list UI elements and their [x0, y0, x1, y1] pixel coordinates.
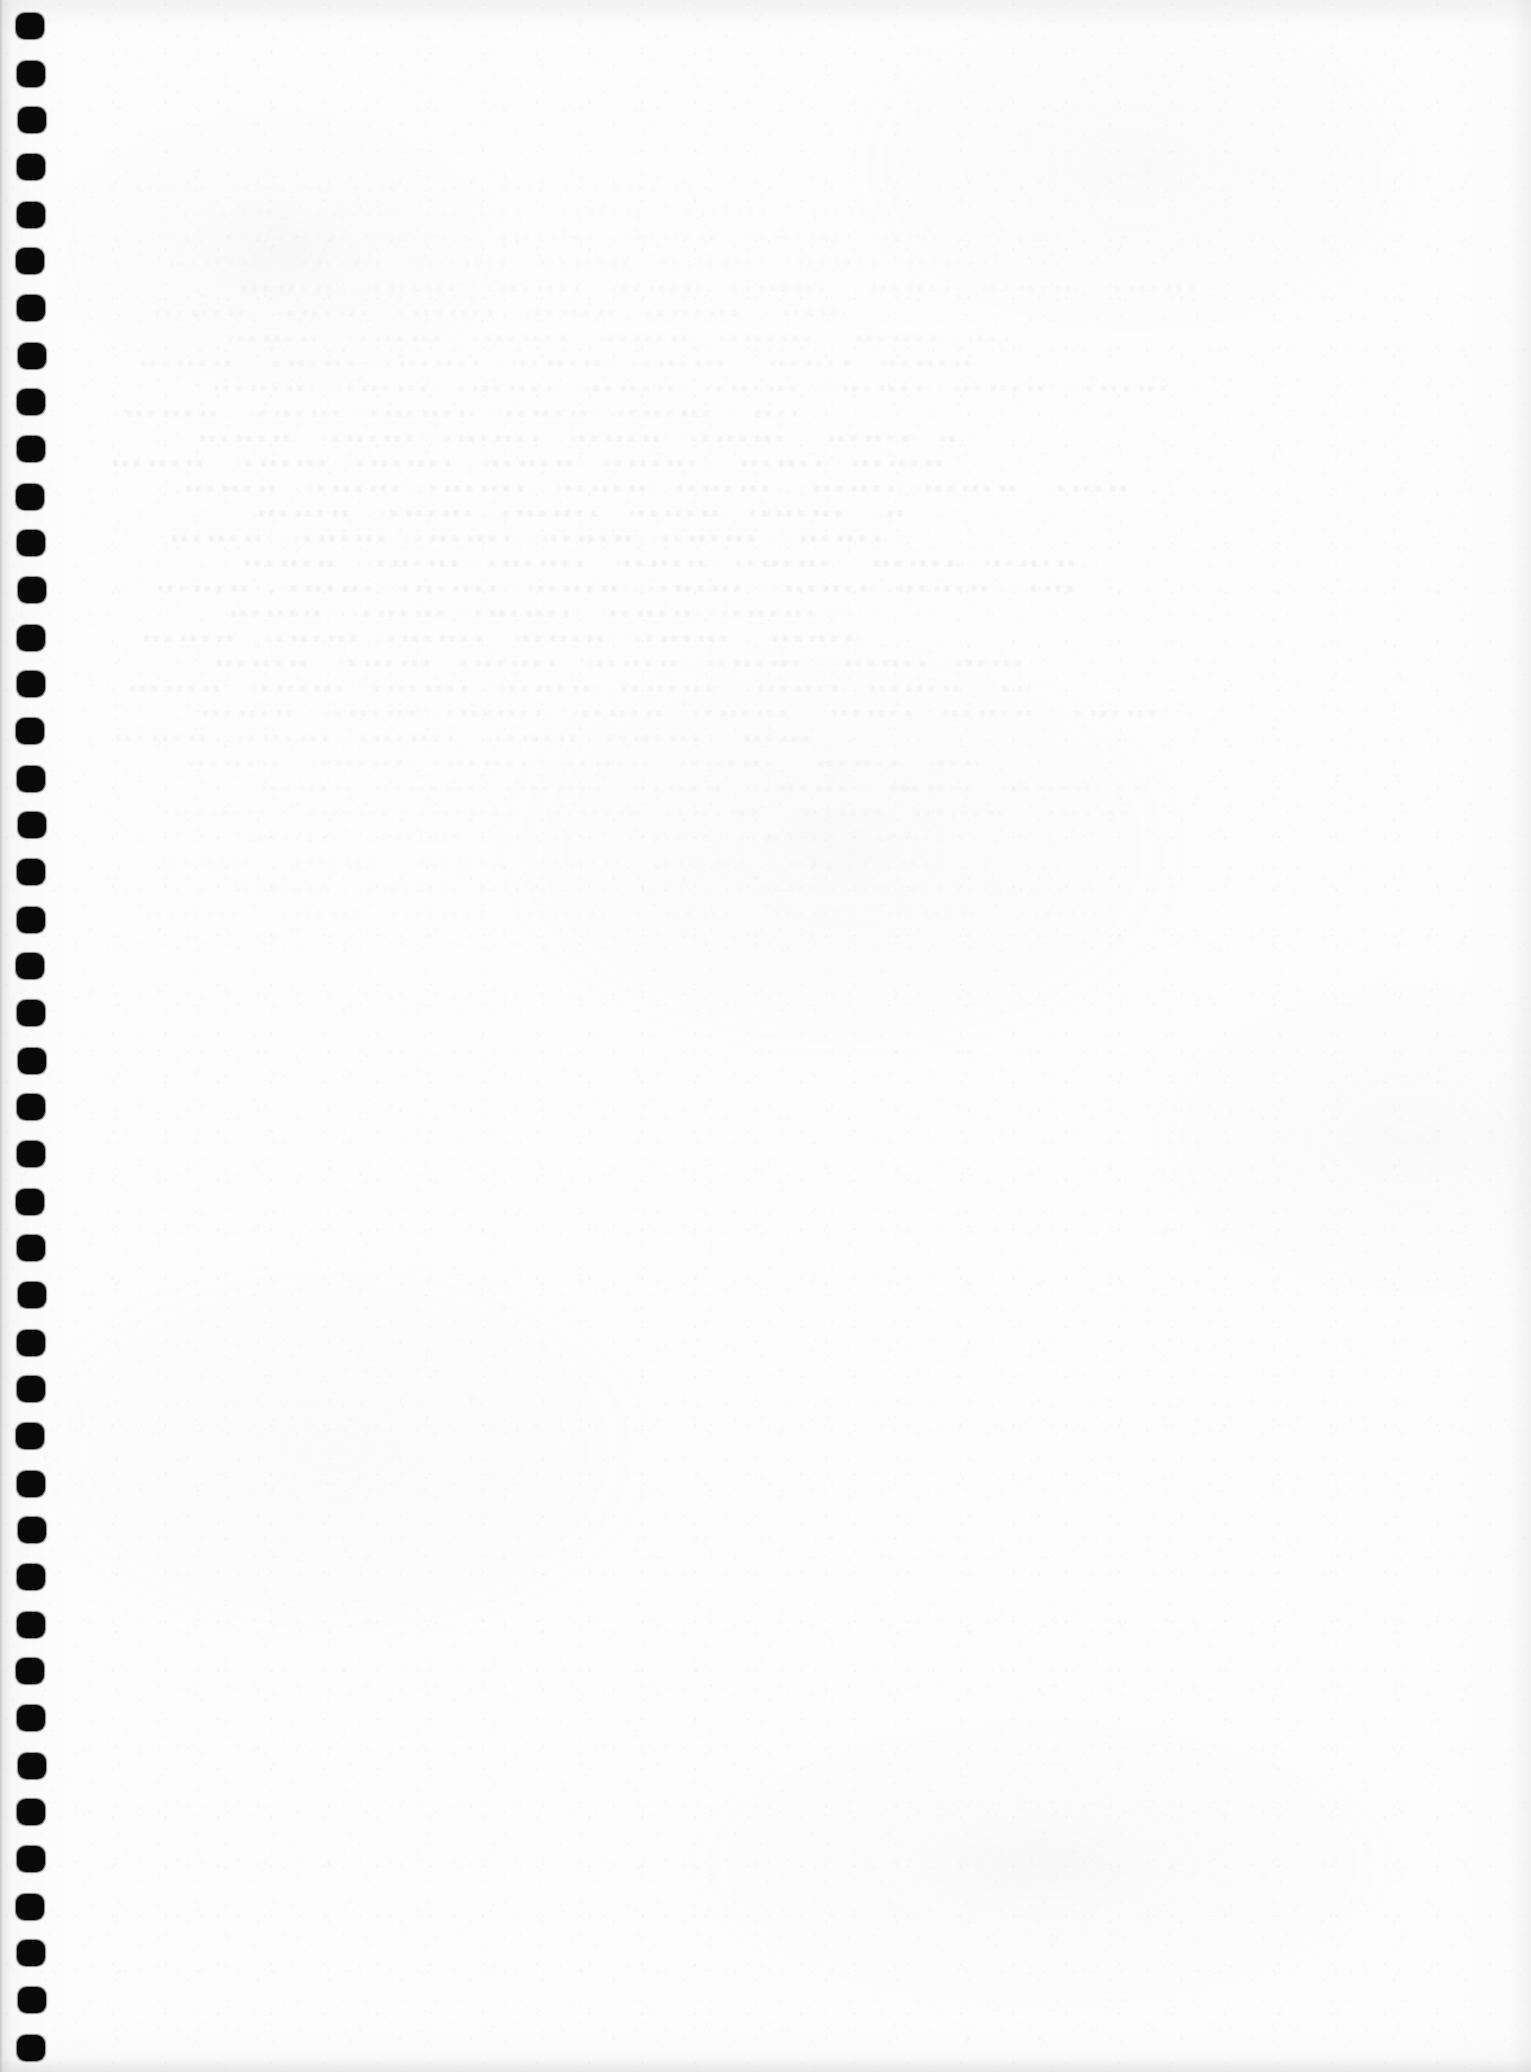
paper-surface: [0, 0, 1531, 2072]
scanned-page: [0, 0, 1531, 2072]
